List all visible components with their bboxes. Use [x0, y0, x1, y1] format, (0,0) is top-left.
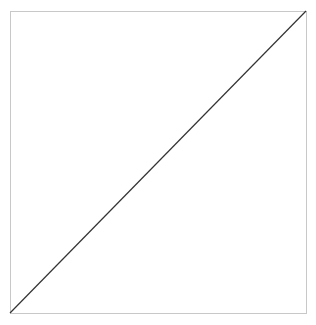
diagram-canvas: [0, 0, 316, 325]
diagram-frame: [11, 12, 307, 314]
diagonal-line: [10, 11, 306, 313]
